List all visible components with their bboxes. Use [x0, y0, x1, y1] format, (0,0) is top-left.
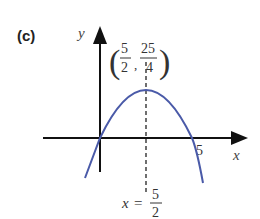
vertex-x-numerator: 5	[121, 41, 128, 56]
parabola-curve	[85, 90, 203, 183]
symmetry-equals: =	[134, 195, 142, 211]
parabola-diagram: (c) y x 5 ( 5 2 , 25 4 ) x = 5 2	[0, 0, 260, 219]
vertex-y-numerator: 25	[141, 41, 155, 56]
x-axis-arrow-icon	[231, 131, 248, 145]
vertex-label: ( 5 2 , 25 4 )	[109, 41, 170, 81]
x-axis-label: x	[232, 147, 240, 163]
y-axis-label: y	[76, 25, 85, 41]
vertex-x-denominator: 2	[121, 60, 128, 75]
symmetry-x: x	[121, 195, 129, 211]
y-axis-arrow-icon	[93, 26, 107, 44]
vertex-y-denominator: 4	[146, 60, 153, 75]
vertex-comma: ,	[134, 57, 137, 72]
vertex-open-paren: (	[109, 43, 120, 81]
symmetry-denominator: 2	[152, 205, 159, 219]
symmetry-numerator: 5	[152, 187, 159, 202]
panel-label: (c)	[17, 27, 35, 44]
symmetry-line-label: x = 5 2	[121, 187, 162, 219]
vertex-close-paren: )	[159, 43, 170, 81]
